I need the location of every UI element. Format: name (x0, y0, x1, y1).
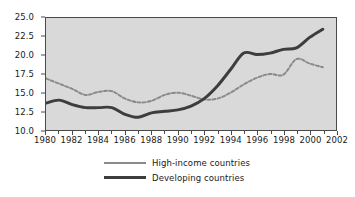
series-line-developing (46, 29, 323, 117)
y-tick-label: 20.0 (15, 50, 34, 60)
x-tick-mark-minor (244, 131, 245, 134)
x-tick-mark-minor (138, 131, 139, 134)
x-tick-mark-minor (191, 131, 192, 134)
legend-label-developing: Developing countries (152, 173, 244, 183)
x-tick-label: 1990 (167, 135, 189, 145)
x-tick-mark (98, 131, 99, 135)
x-tick-mark-minor (297, 131, 298, 134)
x-tick-mark-minor (58, 131, 59, 134)
x-tick-mark (204, 131, 205, 135)
x-tick-label: 1992 (193, 135, 215, 145)
x-tick-label: 2002 (326, 135, 348, 145)
x-tick-label: 1986 (114, 135, 136, 145)
chart-figure: 25.022.520.017.515.012.510.0 19801982198… (0, 0, 355, 197)
x-tick-label: 2000 (299, 135, 321, 145)
x-tick-mark (257, 131, 258, 135)
legend-item-developing: Developing countries (0, 170, 355, 185)
x-tick-label: 1980 (34, 135, 56, 145)
y-tick-label: 25.0 (15, 12, 34, 22)
y-tick-label: 17.5 (15, 69, 34, 79)
x-tick-mark (151, 131, 152, 135)
y-tick-label: 22.5 (15, 31, 34, 41)
x-tick-mark-minor (324, 131, 325, 134)
plot-svg (46, 18, 336, 130)
series-line-high-income (46, 59, 323, 103)
x-tick-label: 1984 (87, 135, 109, 145)
x-axis: 1980198219841986198819901992199419961998… (0, 133, 355, 153)
x-tick-label: 1998 (273, 135, 295, 145)
x-tick-mark-minor (218, 131, 219, 134)
y-tick-label: 12.5 (15, 107, 34, 117)
y-tick-label: 15.0 (15, 88, 34, 98)
x-tick-label: 1994 (220, 135, 242, 145)
x-tick-mark (284, 131, 285, 135)
legend-item-high-income: High-income countries (0, 155, 355, 170)
legend-swatch-high-income (104, 162, 146, 164)
x-tick-mark-minor (271, 131, 272, 134)
x-tick-mark (178, 131, 179, 135)
legend-label-high-income: High-income countries (152, 158, 250, 168)
legend-swatch-developing (104, 176, 146, 179)
x-tick-mark (337, 131, 338, 135)
x-tick-mark-minor (164, 131, 165, 134)
x-tick-mark (231, 131, 232, 135)
x-tick-mark (45, 131, 46, 135)
x-tick-label: 1982 (61, 135, 83, 145)
x-tick-label: 1996 (246, 135, 268, 145)
x-tick-mark-minor (111, 131, 112, 134)
x-tick-label: 1988 (140, 135, 162, 145)
x-tick-mark (72, 131, 73, 135)
chart-legend: High-income countries Developing countri… (0, 155, 355, 185)
x-tick-mark (125, 131, 126, 135)
plot-area (45, 17, 337, 131)
x-tick-mark (310, 131, 311, 135)
x-tick-mark-minor (85, 131, 86, 134)
